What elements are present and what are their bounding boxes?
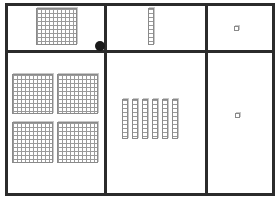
- ten-rod-block: [132, 99, 138, 139]
- ten-rod-block: [148, 8, 154, 45]
- decimal-point-dot: [95, 41, 105, 51]
- hundred-flat-block: [57, 122, 98, 163]
- hundred-flat-block: [36, 8, 77, 45]
- hundred-flat-block: [12, 122, 53, 163]
- column-divider-hundreds-tens: [104, 3, 107, 196]
- unit-cube-block: [235, 113, 240, 118]
- ten-rod-block: [142, 99, 148, 139]
- column-divider-tens-ones: [205, 3, 208, 196]
- ten-rod-block: [162, 99, 168, 139]
- hundred-flat-block: [12, 74, 53, 114]
- unit-cube-block: [234, 26, 239, 31]
- ten-rod-block: [172, 99, 178, 139]
- hundred-flat-block: [57, 74, 98, 114]
- ten-rod-block: [152, 99, 158, 139]
- row-divider: [5, 50, 275, 53]
- ten-rod-block: [122, 99, 128, 139]
